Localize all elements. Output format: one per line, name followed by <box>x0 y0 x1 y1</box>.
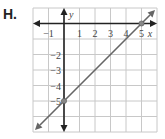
svg-text:−4: −4 <box>50 81 61 92</box>
svg-text:3: 3 <box>108 28 113 39</box>
coordinate-graph: −112345−2−3−4−5xy <box>0 0 165 139</box>
svg-text:1: 1 <box>77 28 82 39</box>
svg-text:−2: −2 <box>50 50 61 61</box>
svg-text:y: y <box>68 9 74 20</box>
svg-text:−1: −1 <box>43 28 54 39</box>
svg-text:−3: −3 <box>50 65 61 76</box>
svg-text:x: x <box>147 28 153 39</box>
svg-text:5: 5 <box>139 28 144 39</box>
svg-text:2: 2 <box>93 28 98 39</box>
